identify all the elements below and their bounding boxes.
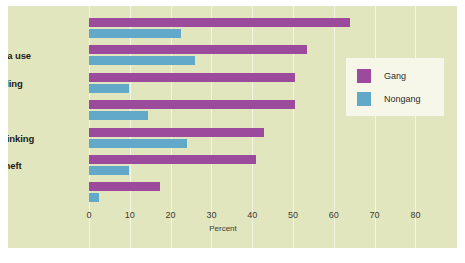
bar-gang [89,18,350,27]
bar-gang [89,128,264,137]
bar-gang [89,155,256,164]
chart-figure: AssaultMarijuana useDrug sellingArrestBi… [0,0,465,263]
bar-gang [89,45,307,54]
legend-label-nongang: Nongang [384,94,421,104]
x-axis-title: Percent [209,224,237,233]
x-tick-label: 60 [329,210,339,220]
x-tick-label: 40 [247,210,257,220]
legend-swatch-nongang [357,92,371,106]
cropped-caption-sliver [110,0,360,5]
x-tick-label: 20 [166,210,176,220]
bar-group: Felony theft [8,154,457,182]
legend-label-gang: Gang [384,71,406,81]
bar-group: Assault [8,17,457,45]
bar-nongang [89,29,181,38]
x-tick-label: 80 [410,210,420,220]
bar-nongang [89,166,129,175]
bar-gang [89,100,295,109]
category-label: Binge drinking [8,133,89,144]
category-label: Marijuana use [8,50,89,61]
category-label: Felony theft [8,160,89,171]
chart-legend: Gang Nongang [346,58,444,116]
x-tick-label: 50 [288,210,298,220]
x-axis: Percent 01020304050607080 [8,202,457,248]
x-tick-label: 70 [370,210,380,220]
x-tick-label: 10 [125,210,135,220]
legend-swatch-gang [357,69,371,83]
category-label: Robbery [8,187,89,198]
category-label: Arrest [8,105,89,116]
bar-nongang [89,139,187,148]
x-tick-label: 0 [86,210,91,220]
bar-nongang [89,56,195,65]
x-tick-label: 30 [206,210,216,220]
bar-gang [89,182,160,191]
plot-panel: AssaultMarijuana useDrug sellingArrestBi… [8,6,457,248]
bar-nongang [89,84,129,93]
bar-nongang [89,111,148,120]
bar-group: Binge drinking [8,127,457,155]
bar-gang [89,73,295,82]
category-label: Assault [8,23,89,34]
category-label: Drug selling [8,78,89,89]
